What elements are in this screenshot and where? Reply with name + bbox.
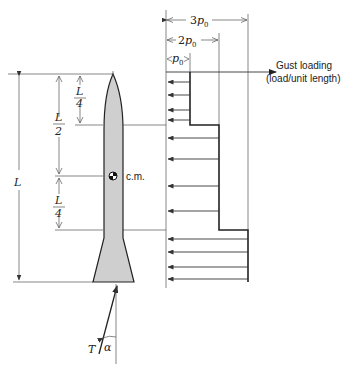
thrust-label: T: [88, 343, 97, 356]
load-arrows: [168, 82, 248, 279]
center-of-mass-icon: [109, 172, 117, 180]
lower-quarter-label-num: L: [54, 194, 62, 207]
gust-label-line1: Gust loading: [276, 60, 332, 71]
length-label: L: [13, 176, 21, 189]
angle-label: α: [104, 341, 112, 354]
angle-arc: [103, 336, 116, 338]
gust-label-line2: (load/unit length): [266, 73, 341, 84]
upper-quarter-label-den: 4: [75, 97, 83, 110]
lower-quarter-label-den: 4: [54, 207, 62, 220]
rocket-diagram: L L 2 L 4 L 4 c.m. T α 3p0: [0, 0, 364, 380]
p0-label: p0: [172, 52, 184, 67]
3p0-label: 3p0: [190, 14, 209, 29]
2p0-label: 2p0: [178, 34, 197, 49]
half-label-num: L: [54, 111, 62, 124]
half-label-den: 2: [54, 125, 62, 138]
center-of-mass-label: c.m.: [126, 171, 145, 182]
